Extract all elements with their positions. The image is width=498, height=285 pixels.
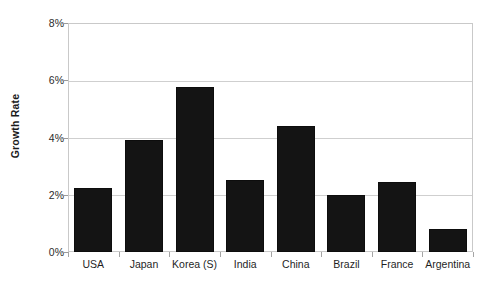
- x-tick-mark: [169, 252, 170, 257]
- x-tick-label: USA: [83, 258, 105, 270]
- x-tick-mark: [422, 252, 423, 257]
- x-tick-mark: [372, 252, 373, 257]
- y-tick-label: 4%: [24, 132, 64, 144]
- x-tick-mark: [321, 252, 322, 257]
- gridline: [69, 195, 472, 196]
- y-axis-title: Growth Rate: [2, 0, 28, 252]
- gridline: [69, 81, 472, 82]
- x-tick-label: Japan: [130, 258, 159, 270]
- y-tick-mark: [62, 80, 68, 81]
- x-tick-mark: [271, 252, 272, 257]
- growth-rate-bar-chart: Growth Rate 0%2%4%6%8% USAJapanKorea (S)…: [0, 0, 498, 285]
- y-axis-title-label: Growth Rate: [9, 94, 21, 159]
- y-tick-mark: [62, 195, 68, 196]
- y-tick-mark: [62, 138, 68, 139]
- y-tick-label: 2%: [24, 189, 64, 201]
- y-tick-label: 6%: [24, 74, 64, 86]
- y-tick-mark: [62, 23, 68, 24]
- gridline: [69, 138, 472, 139]
- x-tick-label: China: [282, 258, 309, 270]
- y-tick-label: 0%: [24, 246, 64, 258]
- x-tick-mark: [473, 252, 474, 257]
- x-tick-label: India: [234, 258, 257, 270]
- x-tick-label: Argentina: [425, 258, 470, 270]
- plot-area: [68, 23, 473, 252]
- x-tick-label: Brazil: [333, 258, 359, 270]
- y-tick-label: 8%: [24, 17, 64, 29]
- x-tick-label: Korea (S): [172, 258, 217, 270]
- x-tick-mark: [119, 252, 120, 257]
- x-tick-mark: [220, 252, 221, 257]
- x-tick-mark: [68, 252, 69, 257]
- x-tick-label: France: [381, 258, 414, 270]
